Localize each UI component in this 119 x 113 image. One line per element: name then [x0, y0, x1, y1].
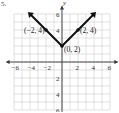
x-tick-label: 4 [92, 64, 96, 72]
point-label: (−2, 4) [24, 26, 45, 35]
axes: y [6, 0, 119, 112]
graph: y −6−4−224664246 (−2, 4)(0, 2)(2, 4) [0, 0, 119, 112]
point-label: (0, 2) [64, 45, 81, 54]
x-tick-label: 2 [76, 64, 80, 72]
y-tick-label: 2 [56, 75, 60, 83]
y-tick-label: 4 [56, 27, 60, 35]
point-label: (2, 4) [80, 26, 97, 35]
x-tick-label: −2 [44, 64, 52, 72]
x-axis-left-arrow-icon [6, 60, 10, 64]
x-axis-right-arrow-icon [114, 60, 118, 64]
x-tick-label: 6 [108, 64, 112, 72]
y-tick-label: 4 [56, 91, 60, 99]
x-tick-label: −4 [28, 64, 36, 72]
data-point [44, 28, 48, 32]
y-tick-label: 6 [56, 107, 60, 113]
y-axis-label: y [62, 0, 67, 7]
x-tick-label: −6 [12, 64, 20, 72]
y-tick-label: 6 [56, 11, 60, 19]
